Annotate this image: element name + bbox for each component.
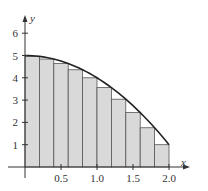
riemann-rectangle [155, 145, 169, 167]
riemann-rectangle [25, 56, 39, 167]
y-tick-label: 2 [13, 116, 19, 128]
y-tick-label: 6 [13, 27, 19, 39]
y-tick-label: 3 [13, 94, 19, 106]
riemann-rectangle [126, 113, 140, 167]
x-tick-label: 2.0 [162, 172, 176, 184]
x-tick-label: 1.0 [90, 172, 104, 184]
riemann-rectangle [97, 88, 111, 167]
y-tick-label: 4 [13, 72, 19, 84]
riemann-sum-chart: 1234560.51.01.52.0 x y [0, 0, 208, 191]
x-tick-label: 0.5 [54, 172, 68, 184]
y-tick-label: 1 [13, 139, 19, 151]
y-axis-arrow-icon [23, 15, 28, 22]
riemann-rectangle [68, 70, 82, 167]
x-axis-label: x [180, 156, 186, 168]
riemann-rectangle [54, 64, 68, 167]
riemann-rectangle [39, 59, 53, 167]
x-tick-label: 1.5 [126, 172, 140, 184]
riemann-rectangle [83, 78, 97, 167]
y-axis-label: y [29, 12, 35, 24]
rectangles [25, 56, 169, 167]
y-tick-label: 5 [13, 50, 19, 62]
riemann-rectangle [111, 99, 125, 167]
riemann-rectangle [140, 128, 154, 167]
